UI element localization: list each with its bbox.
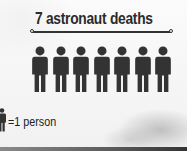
- person-icon: [32, 46, 48, 97]
- person-icon: [135, 46, 151, 97]
- rule-end-dot: [169, 29, 173, 33]
- person-icon: [73, 46, 89, 97]
- person-pictogram-row: [32, 46, 171, 97]
- legend-label: =1 person: [8, 115, 56, 129]
- title-rule: [32, 31, 172, 33]
- bottom-strip: [0, 147, 187, 151]
- rule-start-dot: [30, 29, 34, 33]
- person-icon: [114, 46, 130, 97]
- person-icon: [0, 108, 6, 136]
- person-icon: [53, 46, 69, 97]
- legend: =1 person: [0, 108, 64, 136]
- person-icon: [155, 46, 171, 97]
- chart-title: 7 astronaut deaths: [35, 10, 153, 28]
- person-icon: [94, 46, 110, 97]
